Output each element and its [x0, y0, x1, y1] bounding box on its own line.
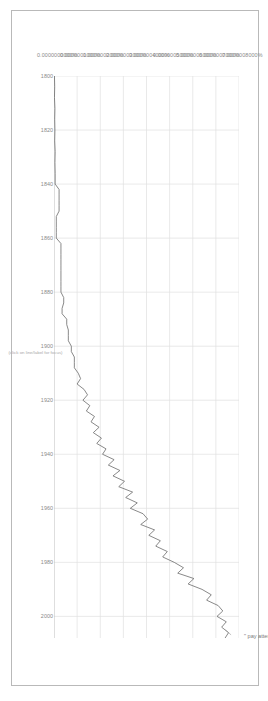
rotated-figure-wrapper: 1800182018401860188019001920194019601980…: [0, 0, 268, 701]
x-axis-tick-label: 1820: [41, 127, 53, 133]
gridlines: [54, 76, 239, 638]
x-axis-tick-label: 1960: [41, 505, 53, 511]
x-axis-tick-label: 1900: [41, 343, 53, 349]
x-axis-tick-label: 1980: [41, 559, 53, 565]
series-lines[interactable]: [54, 76, 228, 638]
x-axis-tick-label: 1860: [41, 235, 53, 241]
x-axis-note: (click on line/label for focus): [8, 349, 62, 354]
x-axis-tick-label: 1840: [41, 181, 53, 187]
y-axis-tick-label: 0.0000008000%: [222, 52, 256, 58]
series-line[interactable]: [54, 76, 228, 638]
plot-svg[interactable]: [54, 76, 239, 638]
plot-area[interactable]: [54, 76, 239, 638]
x-axis-tick-label: 1940: [41, 451, 53, 457]
x-axis-tick-label: 1880: [41, 289, 53, 295]
x-axis-tick-label: 2000: [41, 613, 53, 619]
x-axis-tick-label: 1800: [41, 73, 53, 79]
x-axis-tick-label: 1920: [41, 397, 53, 403]
ngram-chart-page: 1800182018401860188019001920194019601980…: [0, 0, 268, 701]
series-annotation-label[interactable]: " pay attention ": [244, 633, 268, 639]
